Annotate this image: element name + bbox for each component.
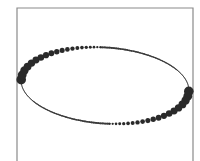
dot	[48, 50, 54, 56]
dot	[43, 52, 49, 58]
dot	[122, 122, 125, 125]
dot	[145, 118, 150, 123]
dot	[93, 46, 96, 49]
dot	[70, 46, 74, 50]
dot	[118, 122, 121, 125]
dot	[135, 120, 139, 124]
dot	[80, 46, 84, 50]
dot	[60, 48, 65, 53]
dot	[115, 123, 118, 126]
ellipse-dot-diagram	[0, 0, 200, 161]
dot	[112, 123, 114, 125]
dot	[151, 117, 156, 122]
dot	[131, 121, 135, 125]
dot	[89, 46, 92, 49]
dot	[156, 115, 162, 121]
dot	[126, 122, 130, 126]
dot	[54, 49, 59, 54]
dot	[109, 123, 111, 125]
dot	[140, 119, 145, 124]
dot	[161, 113, 167, 119]
dot	[85, 46, 88, 49]
dot	[96, 46, 98, 48]
dot	[99, 46, 101, 48]
background	[0, 0, 200, 161]
dot	[75, 46, 79, 50]
dot	[65, 47, 70, 52]
